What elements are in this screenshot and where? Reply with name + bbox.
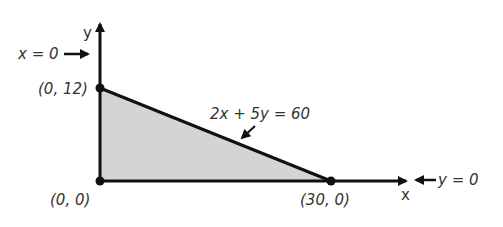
vertex-label-0-12: (0, 12) [38, 80, 88, 98]
vertex-0-0 [96, 177, 105, 186]
constraint-label-y0: y = 0 [437, 171, 479, 189]
x-axis-label: x [401, 186, 410, 204]
feasible-region-diagram: y x x = 0 y = 0 2x + 5y = 60 (0, 12) (0,… [0, 0, 503, 227]
vertex-label-0-0: (0, 0) [50, 191, 90, 209]
vertex-label-30-0: (30, 0) [300, 191, 350, 209]
pointer-arrow-icon [242, 126, 255, 138]
vertex-30-0 [327, 177, 336, 186]
y-axis-label: y [83, 24, 92, 42]
constraint-label-line: 2x + 5y = 60 [210, 105, 310, 123]
vertex-0-12 [96, 84, 105, 93]
constraint-label-x0: x = 0 [17, 45, 59, 63]
